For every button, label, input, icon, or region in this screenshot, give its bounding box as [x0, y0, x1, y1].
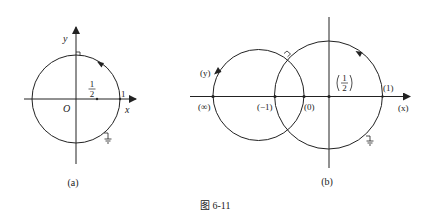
a-point-half: [96, 98, 98, 100]
figure-6-11: y x O 1 2 1 (a): [0, 0, 431, 215]
a-half-denominator: 2: [90, 89, 95, 99]
b-half-label: 1 2: [337, 73, 352, 93]
b-half-numerator: 1: [342, 73, 347, 83]
b-point-one: [381, 95, 383, 97]
b-point-neg1: [273, 95, 276, 98]
a-y-label: y: [62, 33, 68, 44]
a-origin-label: O: [63, 103, 70, 114]
a-one-label: 1: [121, 89, 126, 99]
b-direction-arrow-large-icon: [356, 51, 363, 57]
b-point-half: [327, 95, 330, 98]
panel-b: (y) (x) (∞) (−1) (0) (1) 1 2 (b): [190, 17, 410, 188]
b-half-denominator: 2: [342, 83, 347, 93]
b-panel-label: (b): [321, 176, 333, 188]
b-right-angle-mark: [284, 51, 291, 57]
ground-icon: [366, 136, 374, 145]
a-direction-arrow-icon: [97, 62, 104, 68]
figure-caption: 图 6-11: [200, 200, 230, 211]
panel-a: y x O 1 2 1 (a): [24, 27, 136, 189]
a-half-numerator: 1: [90, 79, 95, 89]
b-inf-label: (∞): [198, 102, 210, 112]
b-small-circle: [213, 50, 304, 141]
b-neg1-label: (−1): [257, 102, 273, 112]
b-one-label: (1): [383, 83, 394, 93]
b-direction-arrow-small-icon: [214, 67, 222, 75]
ground-icon: [104, 133, 112, 143]
b-y-label: (y): [200, 68, 211, 78]
a-x-label: x: [124, 104, 130, 115]
b-point-zero: [302, 95, 305, 98]
b-point-inf: [211, 95, 214, 98]
a-panel-label: (a): [67, 177, 78, 189]
b-zero-label: (0): [304, 102, 315, 112]
b-x-label: (x): [398, 103, 409, 113]
